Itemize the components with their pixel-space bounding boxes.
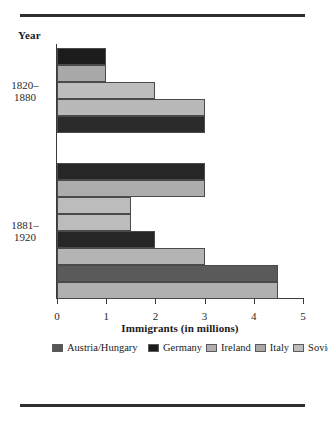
legend-label: Germany	[163, 342, 202, 354]
legend-item-ireland: Ireland	[206, 341, 251, 354]
x-tick-label-5: 5	[300, 310, 306, 322]
group-label-line2: 1880	[2, 91, 48, 103]
plot-area: 012345 1820–18801881–1920	[57, 44, 303, 298]
bar-ireland	[57, 248, 205, 265]
x-tick-label-2: 2	[153, 310, 159, 322]
x-tick-5	[303, 298, 304, 304]
bar-all-other	[57, 163, 205, 180]
legend-label: Soviet Union	[308, 342, 328, 354]
group-label-line2: 1920	[2, 231, 48, 243]
year-axis-heading: Year	[18, 29, 41, 41]
legend-swatch-icon	[52, 344, 63, 352]
group-label-1: 1820–1880	[2, 79, 48, 103]
chart-legend: Austria/HungaryGermanyIrelandItalySoviet…	[52, 341, 282, 354]
group-label-line1: 1820–	[2, 79, 48, 91]
x-tick-label-0: 0	[54, 310, 60, 322]
group-label-2: 1881–1920	[2, 219, 48, 243]
legend-swatch-icon	[255, 344, 266, 352]
legend-item-austria-hungary: Austria/Hungary	[52, 341, 144, 354]
x-tick-label-1: 1	[103, 310, 109, 322]
legend-item-italy: Italy	[255, 341, 289, 354]
x-axis-title: Immigrants (in millions)	[57, 322, 303, 334]
x-tick-label-4: 4	[251, 310, 257, 322]
bar-italy	[57, 282, 278, 299]
legend-item-germany: Germany	[148, 341, 202, 354]
top-rule	[20, 14, 305, 17]
legend-swatch-icon	[293, 344, 304, 352]
bar-united-kingdom	[57, 82, 155, 99]
bar-all-other	[57, 48, 106, 65]
legend-swatch-icon	[148, 344, 159, 352]
bar-ireland	[57, 99, 205, 116]
bar-germany	[57, 231, 155, 248]
bar-other-europe	[57, 65, 106, 82]
x-tick-label-3: 3	[202, 310, 208, 322]
bar-united-kingdom	[57, 197, 131, 214]
group-label-line1: 1881–	[2, 219, 48, 231]
legend-item-soviet-union: Soviet Union	[293, 341, 328, 354]
legend-label: Italy	[270, 342, 289, 354]
chart-page: Year 012345 1820–18801881–1920 Immigrant…	[0, 0, 328, 423]
bottom-rule	[20, 404, 305, 407]
legend-label: Austria/Hungary	[67, 342, 138, 354]
bar-soviet-union	[57, 214, 131, 231]
legend-label: Ireland	[221, 342, 251, 354]
bar-germany	[57, 116, 205, 133]
legend-swatch-icon	[206, 344, 217, 352]
bar-austria-hungary	[57, 265, 278, 282]
bar-other-europe	[57, 180, 205, 197]
